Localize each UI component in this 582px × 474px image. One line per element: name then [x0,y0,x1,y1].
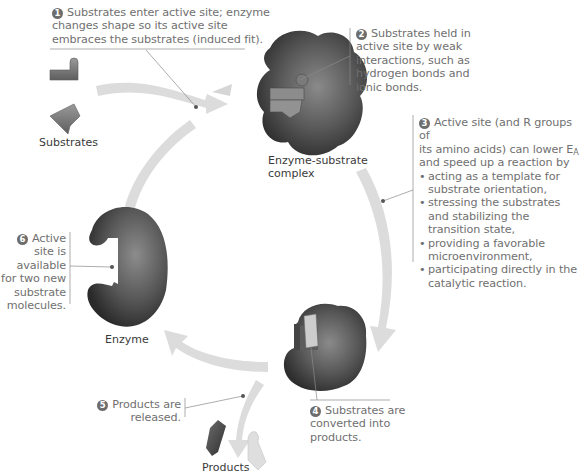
arrow-return-to-enzyme [164,330,268,372]
substrate-pentagon [50,104,80,134]
step-4-caption: 4Substrates are converted into products. [310,404,420,444]
enzyme-cycle-diagram: 1Substrates enter active site; enzyme ch… [0,0,582,474]
enzyme-substrate-complex-label: Enzyme-substrate complex [268,154,368,180]
step-number-badge: 6 [17,234,28,245]
enzyme-conversion-shape [284,304,366,391]
bullet-item: acting as a template forsubstrate orient… [419,170,582,197]
step-1-caption: 1Substrates enter active site; enzyme ch… [52,6,292,46]
step-5-caption: 5Products are released. [80,398,181,425]
step-number-badge: 2 [356,29,367,40]
bullet-item: participating directly in thecatalytic r… [419,263,582,290]
products-label: Products [202,461,250,474]
substrates-label: Substrates [39,136,98,149]
step-number-badge: 3 [419,118,430,129]
enzyme-label: Enzyme [105,333,149,346]
step-2-caption: 2Substrates held in active site by weak … [356,27,486,94]
enzyme-substrate-complex-shape [257,31,367,156]
arrow-substrates-to-complex [96,83,228,114]
product-light [248,432,266,470]
step-number-badge: 5 [97,400,108,411]
bullet-item: stressing the substratesand stabilizing … [419,196,582,236]
product-dark [206,420,226,456]
step-3-bullet-list: acting as a template forsubstrate orient… [419,170,582,291]
step-number-badge: 1 [52,8,63,19]
bullet-item: providing a favorablemicroenvironment, [419,237,582,264]
substrate-l-shape [50,58,78,80]
step-6-caption: 6Active site is available for two new su… [0,232,66,312]
substrate-molecules [50,58,80,134]
step-number-badge: 4 [310,406,321,417]
step-3-caption: 3Active site (and R groups of its amino … [419,116,582,290]
